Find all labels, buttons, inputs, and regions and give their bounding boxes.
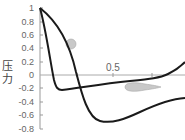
series-curve-a: [40, 8, 185, 90]
y-tick-label: 0.6: [12, 31, 34, 40]
pressure-chart: 1 0.8 0.6 0.4 0.2 0 -0.2 -0.4 -0.6 -0.8 …: [0, 0, 185, 140]
y-tick-label: -0.4: [12, 98, 34, 107]
y-tick-label: -0.8: [12, 125, 34, 134]
y-tick-label: 0: [12, 71, 34, 80]
y-tick-label: 1: [12, 4, 34, 13]
airfoil-icon: [125, 83, 161, 91]
y-tick-label: -0.6: [12, 111, 34, 120]
y-tick-label: 0.2: [12, 58, 34, 67]
y-axis-title: 压力: [2, 60, 14, 86]
y-tick-label: 0.8: [12, 18, 34, 27]
x-tick-label: 0.5: [106, 62, 120, 73]
y-tick-label: 0.4: [12, 44, 34, 53]
y-tick-label: -0.2: [12, 84, 34, 93]
